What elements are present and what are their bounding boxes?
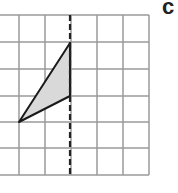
reflection-grid-diagram bbox=[0, 0, 178, 193]
square-grid bbox=[0, 15, 149, 175]
